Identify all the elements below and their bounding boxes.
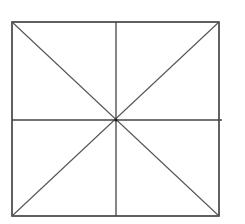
center-point: [114, 118, 117, 121]
square-diagram: [0, 0, 245, 224]
